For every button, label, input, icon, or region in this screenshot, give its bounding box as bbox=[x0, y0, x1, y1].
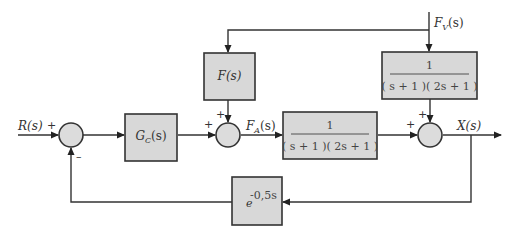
sum2-plus-left: + bbox=[204, 118, 213, 131]
disturbance-numerator: 1 bbox=[426, 59, 433, 72]
disturbance-label: FV(s) bbox=[433, 16, 464, 32]
disturbance-denominator: ( s + 1 )( 2s + 1 ) bbox=[382, 80, 478, 93]
plant-denominator: ( s + 1 )( 2s + 1 ) bbox=[282, 140, 378, 153]
plant-block: 1 ( s + 1 )( 2s + 1 ) bbox=[282, 112, 378, 159]
summing-junction-1: + – bbox=[47, 119, 83, 163]
plant-numerator: 1 bbox=[327, 119, 334, 132]
output-label: X(s) bbox=[456, 119, 481, 133]
feedforward-label: F(s) bbox=[217, 69, 242, 83]
input-label: R(s) bbox=[17, 119, 43, 133]
sum1-plus-sign: + bbox=[47, 119, 56, 132]
delay-block: e -0,5s bbox=[232, 177, 282, 225]
delay-exponent: -0,5s bbox=[250, 189, 277, 202]
feedforward-block: F(s) bbox=[204, 53, 255, 100]
feedforward-branch-wire bbox=[228, 30, 429, 52]
sum3-plus-top: + bbox=[418, 108, 427, 121]
sum3-plus-left: + bbox=[406, 118, 415, 131]
sum1-minus-sign: – bbox=[76, 150, 82, 163]
sum2-plus-top: + bbox=[216, 108, 225, 121]
controller-label: G bbox=[135, 129, 145, 143]
actuator-label: FA(s) bbox=[245, 119, 276, 135]
svg-text:GC(s): GC(s) bbox=[135, 129, 166, 145]
controller-block: GC(s) bbox=[125, 114, 177, 161]
summing-junction-2: + + bbox=[204, 108, 240, 147]
disturbance-block: 1 ( s + 1 )( 2s + 1 ) bbox=[382, 52, 478, 99]
block-diagram: + – + + + + GC(s) F(s) 1 ( s + 1 )( 2s +… bbox=[0, 0, 511, 235]
summing-junction-3: + + bbox=[406, 108, 442, 147]
